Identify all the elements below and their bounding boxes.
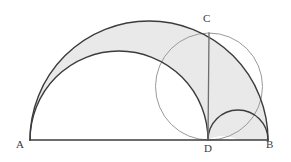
arbelos-figure: A B C D [0,0,291,162]
vertex-label-a: A [16,139,24,150]
arbelos-drawing-canvas [0,0,291,162]
vertex-label-d: D [204,143,212,154]
vertex-label-b: B [266,139,273,150]
vertex-label-c: C [203,13,210,24]
